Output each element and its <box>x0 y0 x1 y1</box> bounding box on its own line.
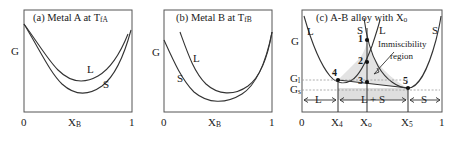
panel-b-title: (b) Metal B at TfB <box>176 13 252 24</box>
phase-region-label-L: L <box>315 94 322 105</box>
point-2 <box>365 60 369 64</box>
panel-b-curve-label-solid: S <box>177 73 183 84</box>
panel-c-curve-label-liquid-left: L <box>307 26 314 37</box>
panel-b-y-axis-label: G <box>152 47 160 58</box>
panel-c-x-tick-max: 1 <box>439 117 445 128</box>
point-1 <box>365 38 369 42</box>
immiscibility-annotation-line1: Immiscibility <box>378 40 427 49</box>
panel-a-curve-label-solid: S <box>103 79 109 90</box>
point-5 <box>406 86 410 90</box>
panel-a-x-tick-min: 0 <box>21 117 27 128</box>
panel-c-x-label-X4: X4 <box>331 117 343 129</box>
panel-c-title: (c) A-B alloy with Xo <box>316 13 407 24</box>
panel-c-energy-level-Gs: Gs <box>290 84 301 96</box>
panel-a-x-tick-max: 1 <box>129 117 135 128</box>
panel-b-x-tick-max: 1 <box>269 117 275 128</box>
panel-c-point-label-2: 2 <box>358 56 363 66</box>
panel-c-curve-label-liquid-right: L <box>379 25 386 36</box>
phase-region-label-LS: L + S <box>361 94 385 105</box>
panel-b-curve-label-liquid: L <box>193 53 200 64</box>
point-3 <box>365 80 369 84</box>
panel-c-x-label-X5: X5 <box>401 117 413 129</box>
panel-c-point-label-3: 3 <box>358 76 363 86</box>
panel-c-point-label-1: 1 <box>358 34 363 44</box>
panel-a-y-axis-label: G <box>11 46 19 57</box>
panel-c-x-label-Xo: Xo <box>360 117 372 129</box>
phase-region-label-S: S <box>421 94 427 105</box>
panel-c: (c) A-B alloy with Xo G Gl Gs L S L S 1 … <box>290 0 455 141</box>
panel-c-point-label-4: 4 <box>332 68 337 78</box>
point-4 <box>336 78 340 82</box>
panel-b-x-tick-min: 0 <box>161 117 167 128</box>
figure-container: (a) Metal A at TfA G L S 0 1 XB (b) Meta… <box>0 0 455 141</box>
panel-c-y-axis-label-G: G <box>291 36 299 47</box>
panel-b-x-axis-label: XB <box>208 117 221 129</box>
immiscibility-annotation-line2: region <box>390 52 413 61</box>
panel-a: (a) Metal A at TfA G L S 0 1 XB <box>0 0 152 141</box>
panel-a-title: (a) Metal A at TfA <box>33 13 108 24</box>
panel-c-x-tick-min: 0 <box>299 117 305 128</box>
panel-a-x-axis-label: XB <box>68 117 81 129</box>
panel-c-point-label-5: 5 <box>403 76 408 86</box>
panel-b: (b) Metal B at TfB G L S 0 1 XB <box>150 0 295 141</box>
panel-c-curve-label-solid-right: S <box>432 25 438 36</box>
panel-a-curve-label-liquid: L <box>87 64 94 75</box>
